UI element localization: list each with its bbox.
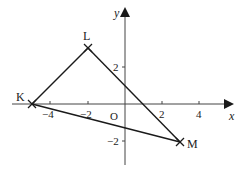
triangle-klm: [32, 48, 180, 142]
point-l-marker-icon: [84, 44, 92, 52]
y-axis-arrow-icon: [120, 7, 130, 17]
point-label-l: L: [83, 29, 90, 43]
x-axis-label: x: [228, 109, 235, 123]
x-axis-arrow-icon: [224, 99, 234, 109]
segment-kl: [32, 48, 88, 104]
point-label-m: M: [187, 137, 198, 151]
x-tick-label: −4: [42, 108, 54, 120]
segment-km: [32, 104, 180, 142]
segment-lm: [88, 48, 180, 142]
y-tick-label: −2: [107, 135, 119, 147]
coordinate-diagram: K L M y x O −4 −2 2 4 2 −2: [0, 0, 250, 172]
point-label-k: K: [16, 90, 25, 104]
y-tick-label: 2: [113, 61, 119, 73]
y-axis-label: y: [113, 6, 120, 20]
origin-label: O: [110, 110, 118, 122]
x-tick-label: −2: [80, 108, 92, 120]
x-tick-label: 4: [196, 108, 202, 120]
diagram-svg: K L M y x O −4 −2 2 4 2 −2: [0, 0, 250, 172]
x-tick-label: 2: [159, 108, 165, 120]
